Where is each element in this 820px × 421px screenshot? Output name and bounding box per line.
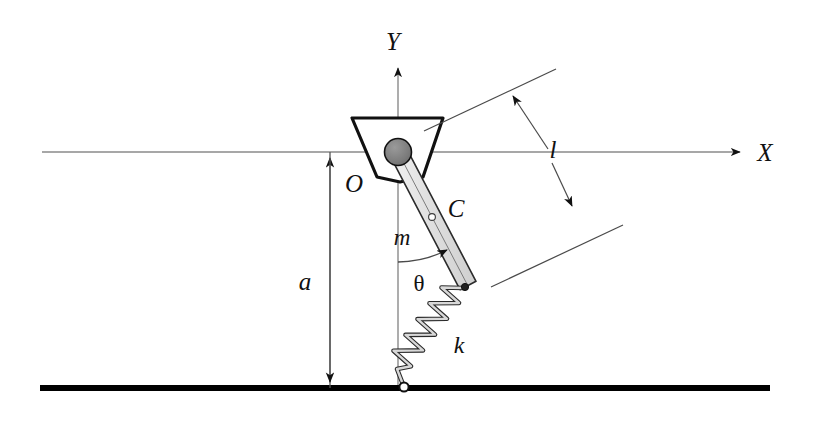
dimension-l-arrow-upper	[513, 96, 548, 149]
pivot-joint	[385, 139, 412, 166]
label-angle-theta: θ	[413, 271, 424, 296]
dimension-l-extension-lower	[491, 225, 623, 287]
mechanics-diagram-figure: X Y O C m θ k a l	[0, 0, 820, 421]
label-center-of-mass: C	[448, 195, 465, 222]
dimension-l-arrow-lower	[552, 163, 572, 206]
label-rod-length-l: l	[550, 136, 557, 163]
center-of-mass-marker	[429, 214, 436, 221]
diagram-canvas: X Y O C m θ k a l	[0, 0, 820, 421]
label-origin: O	[345, 170, 363, 197]
label-mass: m	[394, 225, 411, 250]
label-axis-y: Y	[386, 28, 403, 55]
label-spring-constant: k	[454, 332, 465, 358]
label-axis-x: X	[756, 139, 774, 166]
pivot-circle	[385, 139, 412, 166]
label-height-a: a	[299, 268, 312, 295]
dimension-l-extension-upper	[424, 69, 556, 131]
spring-rod-anchor	[461, 283, 468, 290]
spring-ground-anchor	[399, 382, 408, 391]
